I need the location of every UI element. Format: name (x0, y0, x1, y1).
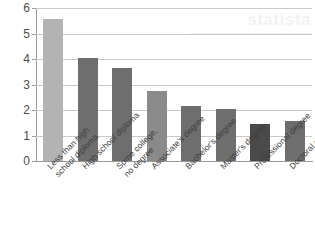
y-axis-tick (32, 161, 36, 162)
y-tick-label: 1 (23, 130, 30, 142)
y-tick-label: 6 (23, 2, 30, 14)
x-axis-labels: Less than highschool diplomaHigh school … (0, 164, 315, 247)
bar (43, 19, 63, 161)
y-tick-label: 3 (23, 79, 30, 91)
y-tick-label: 4 (23, 53, 30, 65)
bar-chart: statista 0123456 Less than highschool di… (0, 0, 315, 247)
y-tick-label: 2 (23, 104, 30, 116)
y-tick-label: 5 (23, 28, 30, 40)
